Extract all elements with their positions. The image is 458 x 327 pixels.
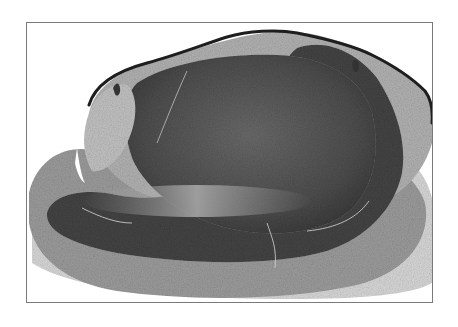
- micrograph-frame: [26, 22, 433, 303]
- tissue-section-image: [27, 23, 433, 303]
- pale-zone: [82, 185, 312, 217]
